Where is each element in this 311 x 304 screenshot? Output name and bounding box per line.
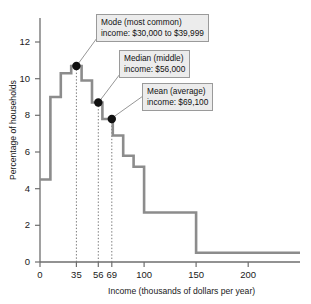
mode-annotation-box: Mode (most common) income: $30,000 to $3…	[96, 14, 209, 42]
y-tick-label-2: 2	[12, 219, 30, 230]
median-annotation-line1: Median (middle)	[124, 53, 185, 64]
x-tick-label-100: 100	[129, 269, 159, 280]
median-annotation-box: Median (middle) income: $56,000	[119, 50, 190, 78]
y-tick-label-12: 12	[12, 36, 30, 47]
y-axis-title: Percentage of households	[8, 70, 18, 190]
median-marker-dot	[94, 98, 102, 106]
income-distribution-chart: 0 2 4 6 8 10 12 0 35 56 69 100 150 200 P…	[0, 0, 311, 304]
mode-marker-dot	[72, 62, 80, 70]
x-tick-label-0: 0	[25, 269, 55, 280]
mean-annotation-line1: Mean (average)	[147, 86, 208, 97]
median-annotation-line2: income: $56,000	[124, 64, 185, 75]
y-axis-ticks	[35, 42, 40, 262]
x-tick-label-69: 69	[97, 269, 127, 280]
mean-marker-dot	[108, 115, 116, 123]
mean-annotation-line2: income: $69,100	[147, 97, 208, 108]
mode-annotation-line2: income: $30,000 to $39,999	[101, 28, 204, 39]
mode-annotation-line1: Mode (most common)	[101, 17, 204, 28]
y-tick-label-0: 0	[12, 256, 30, 267]
x-tick-label-200: 200	[233, 269, 263, 280]
x-axis-title: Income (thousands of dollars per year)	[108, 286, 255, 296]
x-tick-label-150: 150	[181, 269, 211, 280]
mean-annotation-box: Mean (average) income: $69,100	[142, 83, 213, 111]
chart-plot-area	[0, 0, 311, 304]
marker-guide-lines	[76, 66, 111, 262]
x-axis-ticks	[40, 262, 248, 267]
